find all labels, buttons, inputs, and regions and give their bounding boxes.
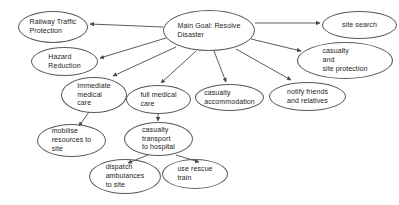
node-immediate-medical-care[interactable]: Immediate medical care: [61, 77, 127, 113]
node-label-notify-friends-and-relatives: notify friends and relatives: [283, 88, 332, 106]
diagram-canvas: Main Goal: Resolve DisasterRailway Traff…: [0, 0, 399, 205]
node-site-search[interactable]: site search: [322, 11, 397, 39]
node-main-goal[interactable]: Main Goal: Resolve Disaster: [163, 10, 255, 51]
node-dispatch-ambulances-to-site[interactable]: dispatch ambulances to site: [89, 159, 161, 194]
node-label-full-medical-care: full medical care: [136, 91, 180, 109]
node-label-hazard-reduction: Hazard Reduction: [44, 53, 84, 71]
node-casualty-and-site-protection[interactable]: casualty and site protection: [297, 42, 393, 79]
edge-main-goal-to-hazard-reduction: [100, 38, 166, 58]
node-label-casualty-transport-to-hospital: casualty transport to hospital: [138, 126, 179, 152]
node-label-use-rescue-train: use rescue train: [173, 165, 216, 183]
edge-main-goal-to-casualty-accommodation: [214, 51, 226, 82]
edge-main-goal-to-full-medical-care: [161, 51, 196, 83]
edge-main-goal-to-notify-friends-and-relatives: [236, 49, 291, 80]
node-notify-friends-and-relatives[interactable]: notify friends and relatives: [269, 82, 346, 111]
edge-main-goal-to-railway-traffic-protection: [90, 24, 163, 27]
node-label-casualty-and-site-protection: casualty and site protection: [318, 47, 371, 73]
node-label-immediate-medical-care: Immediate medical care: [73, 82, 115, 108]
node-label-site-search: site search: [338, 21, 381, 30]
node-full-medical-care[interactable]: full medical care: [126, 85, 191, 114]
node-use-rescue-train[interactable]: use rescue train: [162, 159, 228, 189]
node-mobilise-resources-to-site[interactable]: mobilise resources to site: [37, 124, 106, 157]
node-label-mobilise-resources-to-site: mobilise resources to site: [48, 127, 96, 153]
node-casualty-transport-to-hospital[interactable]: casualty transport to hospital: [124, 122, 193, 156]
node-label-railway-traffic-protection: Railway Traffic Protection: [26, 18, 81, 36]
edge-main-goal-to-casualty-and-site-protection: [251, 39, 301, 51]
node-label-casualty-accommodation: casualty accommodation: [200, 89, 259, 107]
node-railway-traffic-protection[interactable]: Railway Traffic Protection: [18, 11, 88, 43]
node-casualty-accommodation[interactable]: casualty accommodation: [195, 84, 264, 111]
node-label-main-goal: Main Goal: Resolve Disaster: [174, 22, 245, 40]
node-label-dispatch-ambulances-to-site: dispatch ambulances to site: [102, 163, 149, 189]
node-hazard-reduction[interactable]: Hazard Reduction: [31, 47, 98, 76]
